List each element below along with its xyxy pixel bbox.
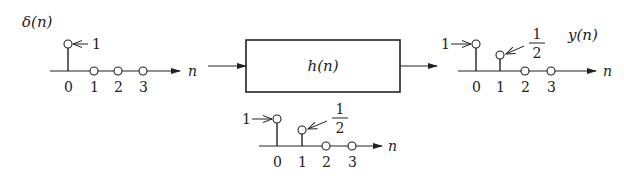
input-sample-3 (139, 67, 147, 75)
h-axis-label: n (388, 138, 397, 154)
output-sample-1 (496, 51, 504, 59)
system-label: h(n) (307, 57, 338, 75)
output-sample-0 (472, 40, 480, 48)
lti-system-diagram: δ(n) n 1 0 1 2 3 h(n) y(n) n 1 (0, 0, 624, 182)
h-annotation-arrow-1 (308, 121, 327, 129)
input-tick-2: 2 (114, 79, 123, 95)
output-sample-3 (547, 67, 555, 75)
output-axis-label: n (603, 63, 612, 79)
output-annotation-0: 1 (441, 36, 450, 52)
input-signal-label: δ(n) (22, 13, 53, 31)
h-tick-1: 1 (298, 154, 307, 170)
output-annotation-arrow-1 (506, 46, 524, 54)
input-tick-0: 0 (64, 79, 73, 95)
h-sample-2 (322, 142, 330, 150)
input-signal-plot: δ(n) n 1 0 1 2 3 (22, 13, 197, 95)
output-sample-2 (521, 67, 529, 75)
fraction-numerator: 1 (336, 101, 345, 117)
input-sample-1 (90, 67, 98, 75)
h-sample-1 (298, 126, 306, 134)
h-annotation-fraction: 1 2 (332, 101, 348, 136)
fraction-denominator: 2 (336, 120, 345, 136)
output-signal-plot: y(n) n 1 1 2 0 1 2 3 (441, 26, 612, 95)
input-tick-1: 1 (90, 79, 99, 95)
system-block: h(n) (246, 40, 400, 92)
output-signal-label: y(n) (567, 26, 598, 44)
output-tick-3: 3 (547, 79, 556, 95)
output-annotation-fraction: 1 2 (529, 26, 545, 61)
input-annotation-value: 1 (92, 36, 101, 52)
h-annotation-0: 1 (242, 111, 251, 127)
input-sample-2 (114, 67, 122, 75)
output-tick-2: 2 (521, 79, 530, 95)
input-sample-0 (64, 40, 72, 48)
h-tick-2: 2 (322, 154, 331, 170)
input-tick-3: 3 (139, 79, 148, 95)
fraction-numerator: 1 (533, 26, 542, 42)
h-tick-3: 3 (348, 154, 357, 170)
output-tick-1: 1 (496, 79, 505, 95)
fraction-denominator: 2 (533, 45, 542, 61)
input-axis-label: n (188, 63, 197, 79)
output-tick-0: 0 (472, 79, 481, 95)
h-tick-0: 0 (273, 154, 282, 170)
impulse-response-plot: n 1 1 2 0 1 2 3 (242, 101, 397, 170)
h-sample-0 (273, 115, 281, 123)
h-sample-3 (348, 142, 356, 150)
